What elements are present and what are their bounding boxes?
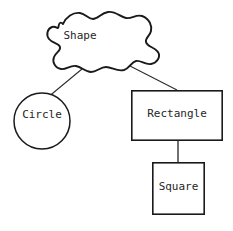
- node-label-rectangle: Rectangle: [131, 108, 223, 120]
- diagram-canvas: Shape Circle Rectangle Square: [0, 0, 233, 231]
- edge-shape-to-circle: [47, 69, 82, 98]
- edge-shape-to-rectangle: [130, 66, 177, 90]
- node-label-circle: Circle: [0, 109, 84, 121]
- node-circle-outline[interactable]: [14, 93, 70, 149]
- node-label-shape: Shape: [0, 30, 160, 42]
- node-label-square: Square: [152, 181, 205, 193]
